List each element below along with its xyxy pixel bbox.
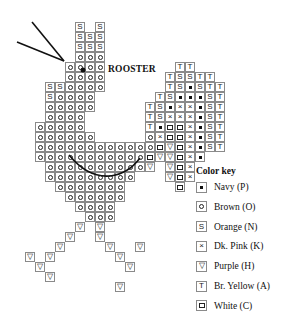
stitch-cell-H: ▽ — [105, 242, 115, 252]
stitch-cell-O — [35, 132, 45, 142]
legend-label: Navy (P) — [214, 182, 249, 192]
stitch-cell-O — [105, 152, 115, 162]
stitch-cell-O — [105, 142, 115, 152]
stitch-cell-O — [65, 172, 75, 182]
stitch-cell-A: T — [195, 72, 205, 82]
stitch-cell-O — [85, 192, 95, 202]
stitch-cell-O — [95, 172, 105, 182]
stitch-cell-H: ▽ — [75, 222, 85, 232]
stitch-cell-H: ▽ — [135, 242, 145, 252]
stitch-cell-O — [145, 132, 155, 142]
legend-item: ×Dk. Pink (K) — [196, 240, 263, 252]
stitch-cell-C — [175, 142, 185, 152]
stitch-cell-P — [195, 152, 205, 162]
stitch-cell-O — [85, 72, 95, 82]
stitch-cell-K: × — [175, 112, 185, 122]
stitch-cell-H: ▽ — [45, 272, 55, 282]
legend-label: Brown (O) — [214, 202, 255, 212]
stitch-cell-O — [95, 82, 105, 92]
stitch-cell-K: × — [185, 112, 195, 122]
legend-symbol-icon — [196, 300, 207, 311]
stitch-cell-O — [75, 152, 85, 162]
stitch-cell-P — [195, 142, 205, 152]
stitch-cell-H: ▽ — [25, 252, 35, 262]
stitch-cell-O — [95, 152, 105, 162]
stitch-cell-O — [65, 132, 75, 142]
stitch-cell-A: T — [165, 82, 175, 92]
stitch-cell-N: S — [45, 92, 55, 102]
stitch-cell-H: ▽ — [95, 232, 105, 242]
stitch-cell-O — [55, 132, 65, 142]
stitch-cell-O — [85, 52, 95, 62]
stitch-cell-P — [195, 122, 205, 132]
stitch-cell-A: T — [215, 82, 225, 92]
stitch-cell-O — [85, 102, 95, 112]
stitch-cell-O — [65, 102, 75, 112]
stitch-cell-O — [45, 132, 55, 142]
stitch-cell-O — [85, 212, 95, 222]
stitch-cell-A: T — [185, 62, 195, 72]
stitch-cell-O — [95, 72, 105, 82]
stitch-cell-O — [55, 152, 65, 162]
stitch-cell-O — [55, 112, 65, 122]
stitch-cell-C — [175, 182, 185, 192]
stitch-cell-O — [95, 212, 105, 222]
stitch-cell-O — [75, 162, 85, 172]
stitch-cell-N: S — [205, 92, 215, 102]
stitch-cell-A: T — [165, 72, 175, 82]
legend-symbol-icon — [196, 182, 207, 193]
stitch-cell-O — [75, 192, 85, 202]
stitch-cell-O — [85, 162, 95, 172]
stitch-cell-O — [75, 52, 85, 62]
stitch-cell-O — [55, 92, 65, 102]
stitch-cell-O — [105, 192, 115, 202]
stitch-cell-K: × — [155, 132, 165, 142]
stitch-cell-O — [75, 92, 85, 102]
stitch-cell-A: T — [145, 122, 155, 132]
stitch-cell-N: S — [95, 42, 105, 52]
stitch-cell-K: × — [185, 142, 195, 152]
stitch-cell-O — [75, 112, 85, 122]
stitch-cell-O — [75, 182, 85, 192]
stitch-cell-O — [45, 112, 55, 122]
legend-label: Orange (N) — [214, 222, 258, 232]
stitch-cell-A: T — [215, 122, 225, 132]
stitch-cell-O — [125, 162, 135, 172]
stitch-cell-N: S — [155, 112, 165, 122]
stitch-cell-O — [75, 172, 85, 182]
legend-item: Navy (P) — [196, 181, 249, 193]
stitch-cell-C — [155, 142, 165, 152]
pattern-title: ROOSTER — [108, 64, 156, 74]
stitch-cell-A: T — [205, 82, 215, 92]
stitch-cell-O — [45, 122, 55, 132]
stitch-cell-N: S — [205, 142, 215, 152]
legend-symbol-icon: T — [196, 281, 207, 292]
stitch-cell-O — [95, 142, 105, 152]
stitch-cell-P — [155, 122, 165, 132]
stitch-cell-H: ▽ — [45, 252, 55, 262]
stitch-cell-A: T — [145, 112, 155, 122]
rooster-pattern-grid: SSSSSSSSTTTSSTTSSTSSTTSTSSTTS××STTS×××ST… — [0, 0, 288, 328]
stitch-cell-K: × — [175, 102, 185, 112]
stitch-cell-O — [75, 62, 85, 72]
stitch-cell-O — [95, 52, 105, 62]
stitch-cell-O — [85, 142, 95, 152]
stitch-cell-A: T — [175, 62, 185, 72]
stitch-cell-O — [115, 152, 125, 162]
stitch-cell-A: T — [215, 92, 225, 102]
stitch-cell-O — [55, 142, 65, 152]
stitch-cell-O — [85, 132, 95, 142]
stitch-cell-N: S — [205, 112, 215, 122]
stitch-cell-O — [135, 162, 145, 172]
stitch-cell-O — [95, 162, 105, 172]
stitch-cell-N: S — [185, 72, 195, 82]
stitch-cell-H: ▽ — [115, 282, 125, 292]
stitch-cell-O — [135, 152, 145, 162]
stitch-cell-O — [95, 192, 105, 202]
stitch-cell-N: S — [155, 102, 165, 112]
stitch-cell-O — [75, 132, 85, 142]
stitch-cell-A: T — [205, 72, 215, 82]
stitch-cell-O — [45, 172, 55, 182]
stitch-cell-O — [85, 92, 95, 102]
legend-item: TBr. Yellow (A) — [196, 280, 270, 292]
